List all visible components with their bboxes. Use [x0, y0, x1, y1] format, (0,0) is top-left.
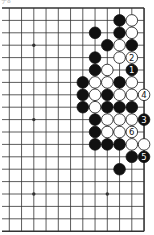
white-stone [89, 101, 101, 113]
black-stone [126, 101, 138, 113]
black-stone: 5 [138, 151, 150, 163]
white-stone [114, 114, 126, 126]
go-board: 214365 [0, 0, 154, 235]
white-stone [114, 39, 126, 51]
move-number: 2 [129, 53, 134, 63]
black-stone [102, 89, 114, 101]
move-number: 6 [129, 127, 134, 137]
black-stone [102, 139, 114, 151]
white-stone [126, 15, 138, 27]
white-stone: 4 [138, 89, 150, 101]
white-stone [126, 27, 138, 39]
black-stone [114, 77, 126, 89]
black-stone: 1 [126, 64, 138, 76]
white-stone [102, 114, 114, 126]
black-stone [114, 27, 126, 39]
black-stone [77, 77, 89, 89]
black-stone [89, 126, 101, 138]
white-stone [126, 114, 138, 126]
white-stone: 6 [126, 126, 138, 138]
white-stone [114, 52, 126, 64]
white-stone [138, 139, 150, 151]
black-stone [89, 27, 101, 39]
white-stone [89, 89, 101, 101]
black-stone [102, 101, 114, 113]
black-stone [126, 151, 138, 163]
black-stone [77, 101, 89, 113]
black-stone [89, 52, 101, 64]
black-stone [77, 89, 89, 101]
black-stone [89, 114, 101, 126]
white-stone [102, 64, 114, 76]
black-stone: 3 [138, 114, 150, 126]
black-stone [114, 15, 126, 27]
black-stone [114, 163, 126, 175]
black-stone [114, 101, 126, 113]
star-point [106, 192, 109, 195]
move-number: 5 [141, 152, 146, 162]
white-stone [114, 126, 126, 138]
black-stone [114, 139, 126, 151]
white-stone [114, 89, 126, 101]
star-point [32, 44, 35, 47]
white-stone [126, 139, 138, 151]
move-number: 1 [129, 65, 134, 75]
white-stone [89, 77, 101, 89]
stones-layer: 214365 [77, 15, 150, 175]
white-stone [102, 126, 114, 138]
black-stone [102, 39, 114, 51]
black-stone [89, 64, 101, 76]
move-number: 3 [141, 115, 146, 125]
black-stone [89, 139, 101, 151]
black-stone [126, 39, 138, 51]
move-number: 4 [141, 90, 146, 100]
white-stone [126, 89, 138, 101]
star-point [32, 192, 35, 195]
white-stone: 2 [126, 52, 138, 64]
star-point [32, 118, 35, 121]
white-stone [102, 77, 114, 89]
white-stone [126, 77, 138, 89]
